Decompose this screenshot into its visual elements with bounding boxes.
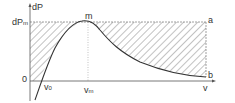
vm-sub: m [89,88,94,94]
y-axis-label: dP [32,3,43,12]
dpm-label: dPm [12,18,28,27]
corner-a-label: a [208,16,213,25]
v0-label: v0 [44,83,52,92]
peak-label: m [85,12,93,21]
x-axis-label: v [203,84,208,93]
origin-label: 0 [22,75,27,84]
dpm-main: dP [12,17,23,27]
diagram-canvas [0,0,235,103]
corner-b-label: b [208,71,213,80]
vm-label: vm [84,86,94,95]
v0-sub: 0 [49,85,52,91]
hatched-area [30,22,206,81]
dpm-sub: m [23,20,28,26]
